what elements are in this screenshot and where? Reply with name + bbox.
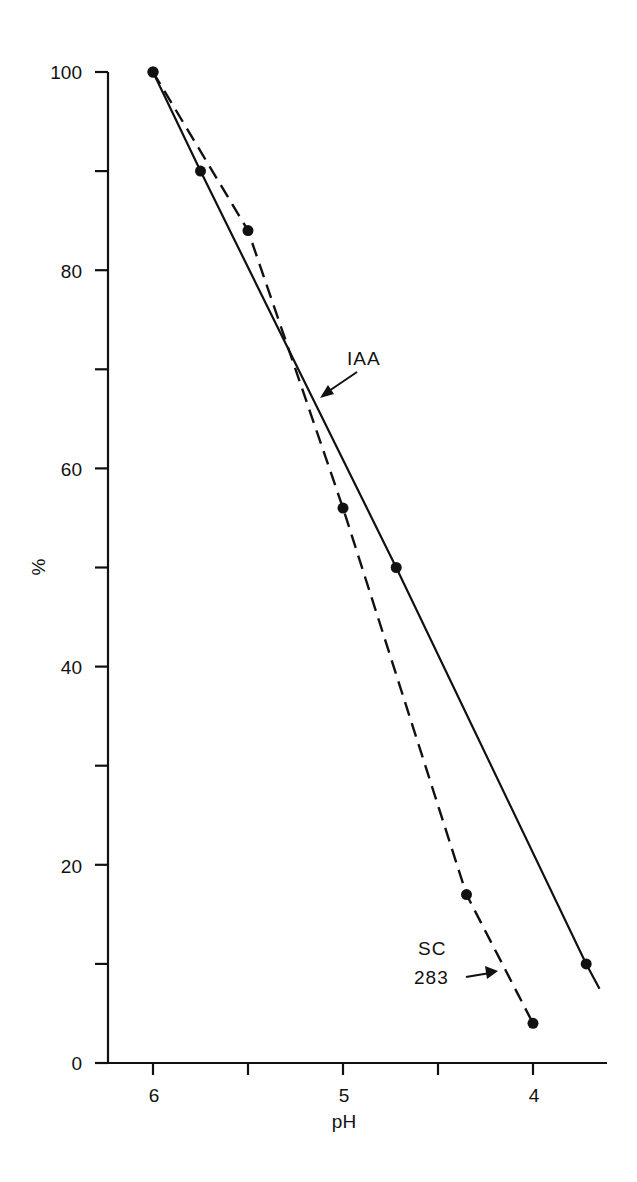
y-tick-label-0: 0	[71, 1053, 82, 1074]
annotation-sc283-label-line1: SC	[418, 938, 446, 959]
y-axis-ticks	[95, 72, 108, 1063]
data-point-marker	[338, 503, 349, 514]
x-axis-tick-labels: 6 5 4	[149, 1085, 540, 1106]
iaa-solid-line	[153, 72, 600, 989]
series-sc283	[148, 67, 539, 1029]
y-axis: 100 80 60 40 20 0 %	[28, 62, 108, 1074]
y-tick-label-20: 20	[61, 856, 82, 877]
data-point-marker	[528, 1018, 539, 1029]
arrow-head-icon	[320, 385, 334, 398]
y-tick-label-60: 60	[61, 459, 82, 480]
y-tick-label-80: 80	[61, 261, 82, 282]
y-axis-title: %	[28, 558, 49, 575]
ph-percent-line-chart: 100 80 60 40 20 0 % 6 5 4 pH IAA SC 28	[0, 0, 637, 1182]
annotation-sc283: SC 283	[414, 938, 498, 988]
annotation-iaa: IAA	[320, 348, 381, 398]
y-tick-label-100: 100	[50, 62, 82, 83]
x-tick-label-4: 4	[529, 1085, 540, 1106]
x-axis: 6 5 4 pH	[96, 1063, 607, 1132]
series-iaa	[148, 67, 600, 989]
x-tick-label-5: 5	[339, 1085, 350, 1106]
x-axis-ticks	[153, 1063, 533, 1075]
sc283-data-markers	[148, 67, 539, 1029]
data-point-marker	[391, 562, 402, 573]
sc283-dashed-line	[153, 72, 533, 1023]
arrow-head-icon	[485, 966, 498, 979]
data-point-marker	[148, 67, 159, 78]
annotation-iaa-label: IAA	[347, 348, 381, 369]
x-axis-title: pH	[332, 1111, 356, 1132]
data-point-marker	[581, 958, 592, 969]
x-tick-label-6: 6	[149, 1085, 160, 1106]
y-tick-label-40: 40	[61, 657, 82, 678]
y-axis-tick-labels: 100 80 60 40 20 0	[50, 62, 82, 1074]
data-point-marker	[195, 166, 206, 177]
data-point-marker	[243, 225, 254, 236]
annotation-sc283-label-line2: 283	[414, 967, 449, 988]
data-point-marker	[461, 889, 472, 900]
